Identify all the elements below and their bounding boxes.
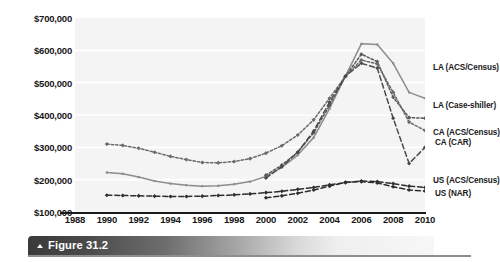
x-axis-tick-label: 1996 (192, 214, 212, 225)
data-point-marker (407, 161, 411, 165)
x-axis-tick-label: 2006 (351, 214, 371, 225)
x-axis-tick-label: 1992 (128, 214, 148, 225)
plot-area (75, 18, 425, 212)
data-point-marker (169, 182, 171, 184)
y-axis-tick-label: $400,000 (34, 110, 72, 121)
data-point-marker (360, 43, 362, 45)
y-axis-tick-label: $700,000 (34, 13, 72, 24)
y-axis-tick-label: $300,000 (34, 142, 72, 153)
data-point-marker (280, 194, 284, 198)
data-point-marker (201, 185, 203, 187)
data-point-marker (313, 137, 315, 139)
data-point-marker (408, 91, 410, 93)
data-point-marker (280, 189, 284, 193)
data-point-marker (248, 157, 252, 161)
caption-label: Figure 31.2 (48, 239, 108, 251)
series-label-la-case-shiller: LA (Case-shiller) (433, 101, 496, 110)
series-label-la-acs-census: LA (ACS/Census) (433, 63, 499, 72)
series-us-nar (264, 180, 425, 200)
x-axis-tick-label: 2000 (256, 214, 276, 225)
data-point-marker (391, 116, 395, 120)
x-axis-labels: 1988199019921994199619982000200220042006… (0, 214, 471, 230)
data-point-marker (152, 194, 156, 198)
data-point-marker (184, 158, 188, 162)
data-point-marker (121, 193, 125, 197)
series-label-ca-acs-census: CA (ACS/Census) (433, 128, 500, 137)
series-label-us-nar: US (NAR) (435, 189, 471, 198)
data-point-marker (424, 97, 425, 99)
series-ca-acs-census (105, 58, 425, 165)
data-point-marker (296, 187, 300, 191)
data-point-marker (248, 192, 252, 196)
data-point-marker (376, 43, 378, 45)
triangle-up-icon (37, 244, 43, 248)
x-axis-tick-label: 1990 (97, 214, 117, 225)
x-axis-tick-label: 1994 (160, 214, 180, 225)
x-axis-tick-label: 2002 (288, 214, 308, 225)
data-point-marker (105, 193, 109, 197)
data-point-marker (105, 142, 109, 146)
data-point-marker (168, 154, 172, 158)
data-point-marker (200, 160, 204, 164)
data-point-marker (392, 62, 394, 64)
data-point-marker (138, 176, 140, 178)
data-point-marker (216, 161, 220, 165)
line-chart-svg (75, 18, 425, 212)
data-point-marker (232, 160, 236, 164)
caption-bar: Figure 31.2 (28, 236, 434, 255)
data-point-marker (423, 116, 425, 120)
data-point-marker (297, 154, 299, 156)
x-axis-tick-label: 2010 (415, 214, 435, 225)
data-point-marker (407, 188, 411, 192)
y-axis-labels: $100,000$200,000$300,000$400,000$500,000… (0, 0, 72, 232)
chart-area: $100,000$200,000$300,000$400,000$500,000… (0, 0, 471, 232)
x-axis-tick-label: 1988 (65, 214, 85, 225)
data-point-marker (200, 194, 204, 198)
data-point-marker (312, 188, 316, 192)
y-axis-tick-label: $500,000 (34, 77, 72, 88)
y-axis-tick-label: $200,000 (34, 174, 72, 185)
data-point-marker (233, 183, 235, 185)
y-axis-tick-label: $600,000 (34, 45, 72, 56)
data-point-marker (423, 185, 425, 189)
data-point-marker (217, 185, 219, 187)
x-axis-tick-label: 2008 (383, 214, 403, 225)
data-point-marker (184, 194, 188, 198)
data-point-marker (264, 196, 268, 200)
data-point-marker (185, 184, 187, 186)
data-point-marker (122, 173, 124, 175)
data-point-marker (153, 180, 155, 182)
x-axis-tick-label: 2004 (319, 214, 339, 225)
data-point-marker (216, 193, 220, 197)
data-point-marker (152, 150, 156, 154)
data-point-marker (296, 191, 300, 195)
data-point-marker (391, 185, 395, 189)
data-point-marker (137, 194, 141, 198)
data-point-marker (423, 189, 425, 193)
data-point-marker (343, 180, 347, 184)
data-point-marker (407, 184, 411, 188)
data-point-marker (249, 181, 251, 183)
series-label-us-acs-census: US (ACS/Census) (433, 176, 500, 185)
data-point-marker (168, 194, 172, 198)
series-label-ca-car: CA (CAR) (435, 138, 471, 147)
caption-body (28, 257, 471, 262)
data-point-marker (106, 171, 108, 173)
figure-caption: Figure 31.2 (28, 236, 471, 262)
x-axis-tick-label: 1998 (224, 214, 244, 225)
data-point-marker (232, 193, 236, 197)
data-point-marker (264, 191, 268, 195)
